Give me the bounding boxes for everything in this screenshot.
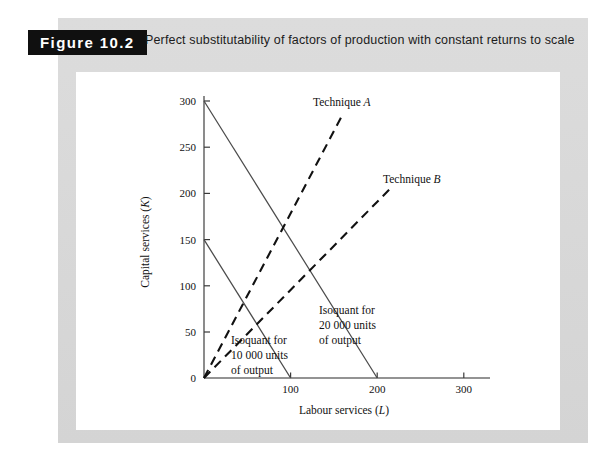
technique-a-label-symbol: A <box>363 96 372 108</box>
svg-text:Labour services (L): Labour services (L) <box>299 404 389 417</box>
x-tick-label-300: 300 <box>456 383 473 395</box>
y-tick-label-200: 200 <box>180 187 197 199</box>
technique-b-label: Technique B <box>383 173 441 186</box>
isoquant-20000-label-line-2: 20 000 units <box>319 319 376 331</box>
y-tick-label-0: 0 <box>191 372 197 384</box>
figure-container: Figure 10.2 Perfect substitutability of … <box>0 0 605 461</box>
isoquant-20000-label-line-3: of output <box>319 334 362 347</box>
y-tick-label-100: 100 <box>180 280 197 292</box>
y-tick-label-250: 250 <box>180 141 197 153</box>
technique-a-label: Technique A <box>313 96 372 109</box>
svg-text:Technique B: Technique B <box>383 173 441 186</box>
y-axis-title: Capital services (K) <box>139 196 152 288</box>
isoquant-10000-label-line-3: of output <box>231 364 274 377</box>
x-tick-label-100: 100 <box>282 383 299 395</box>
y-tick-label-50: 50 <box>185 326 197 338</box>
chart-area: 300 250 200 150 100 50 0 100 200 300 <box>76 72 560 430</box>
y-axis-title-main: Capital services ( <box>139 208 152 288</box>
x-axis-title-symbol: L <box>378 404 385 416</box>
y-tick-label-150: 150 <box>180 234 197 246</box>
x-axis-title-close: ) <box>385 404 389 417</box>
x-axis-title-main: Labour services ( <box>299 404 379 417</box>
isoquant-chart-svg: 300 250 200 150 100 50 0 100 200 300 <box>76 72 560 430</box>
isoquant-10000-label-line-1: Isoquant for <box>231 334 287 347</box>
isoquant-10000-label-line-2: 10 000 units <box>231 349 288 361</box>
y-axis-ticks <box>204 101 210 332</box>
isoquant-20000-label-line-1: Isoquant for <box>319 304 375 317</box>
figure-caption: Perfect substitutability of factors of p… <box>145 33 575 47</box>
technique-b-label-main: Technique <box>383 173 434 186</box>
x-axis-tick-labels: 100 200 300 <box>282 383 472 395</box>
y-tick-label-300: 300 <box>180 95 197 107</box>
svg-text:Technique A: Technique A <box>313 96 372 109</box>
y-axis-title-close: ) <box>139 196 152 200</box>
technique-a-label-main: Technique <box>313 96 364 109</box>
isoquant-20000-label: Isoquant for 20 000 units of output <box>319 304 376 347</box>
x-tick-label-200: 200 <box>369 383 386 395</box>
figure-number-banner: Figure 10.2 <box>28 30 147 55</box>
technique-b-label-symbol: B <box>434 173 441 185</box>
y-axis-tick-labels: 300 250 200 150 100 50 0 <box>180 95 197 384</box>
isoquant-10000-label: Isoquant for 10 000 units of output <box>231 334 288 377</box>
x-axis-title: Labour services (L) <box>299 404 389 417</box>
figure-number-label: Figure 10.2 <box>40 34 135 51</box>
svg-text:Capital services (K): Capital services (K) <box>139 196 152 288</box>
